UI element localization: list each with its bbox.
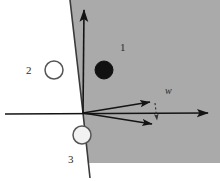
filled-point-class-1 bbox=[95, 61, 113, 79]
open-point-class-2 bbox=[45, 61, 63, 79]
diagram-svg bbox=[0, 0, 220, 181]
shading-texture-overlay bbox=[70, 0, 220, 163]
vertical-axis-line bbox=[83, 10, 84, 113]
open-point-class-3 bbox=[73, 126, 91, 144]
figure-canvas: 1 2 3 w bbox=[0, 0, 220, 181]
horizontal-axis-line bbox=[5, 113, 208, 114]
class-label-2: 2 bbox=[26, 65, 32, 76]
region-label-1: 1 bbox=[120, 42, 126, 53]
class-label-3: 3 bbox=[68, 154, 74, 165]
vector-label-w: w bbox=[165, 86, 172, 96]
